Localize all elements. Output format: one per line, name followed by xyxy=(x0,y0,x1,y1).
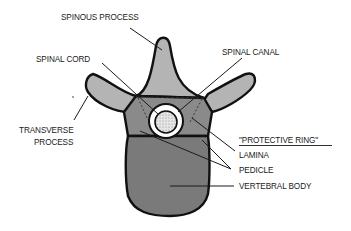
spinal-cord xyxy=(155,111,177,133)
label-spinal-cord: SPINAL CORD xyxy=(36,55,90,64)
leader-transverse-process xyxy=(74,96,88,120)
label-protective-ring: "PROTECTIVE RING" xyxy=(239,136,318,145)
label-pedicle: PEDICLE xyxy=(239,166,274,175)
spinous-process xyxy=(136,38,204,98)
leader-spinous-process xyxy=(130,28,162,50)
vertebra-diagram: SPINOUS PROCESS SPINAL CORD SPINAL CANAL… xyxy=(0,0,351,231)
label-spinous-process: SPINOUS PROCESS xyxy=(61,13,139,22)
vertebral-body xyxy=(126,136,210,216)
label-lamina: LAMINA xyxy=(239,151,270,160)
stray-dot xyxy=(72,96,74,98)
label-spinal-canal: SPINAL CANAL xyxy=(222,48,280,57)
transverse-process-right xyxy=(204,73,255,112)
label-vertebral-body: VERTEBRAL BODY xyxy=(239,182,312,191)
label-transverse-process-line2: PROCESS xyxy=(34,138,74,147)
label-transverse-process-line1: TRANSVERSE xyxy=(19,126,74,135)
